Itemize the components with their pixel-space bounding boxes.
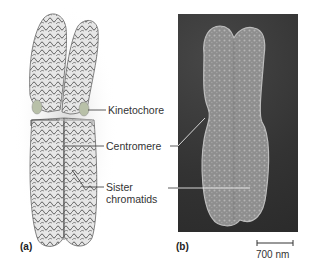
sem-centromere-leader-outer [170,118,205,146]
sem-centromere-leader-inner [178,118,205,146]
scale-bar-label: 700 nm [256,249,289,261]
sister-chromatids-label-line2: chromatids [106,193,157,205]
sem-leaders [0,0,310,264]
sister-chromatids-label-line1: Sister [106,181,133,193]
panel-b-label: (b) [176,241,189,252]
kinetochore-label: Kinetochore [108,104,164,116]
panel-a-label: (a) [20,241,32,252]
centromere-label: Centromere [106,140,161,152]
